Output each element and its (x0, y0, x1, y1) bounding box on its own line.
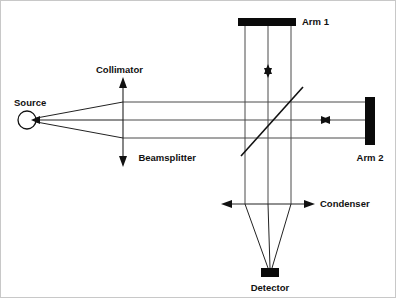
beamsplitter-label: Beamsplitter (138, 152, 196, 163)
condenser-label: Condenser (320, 198, 370, 209)
detector-label: Detector (251, 282, 290, 293)
arm2-mirror (365, 97, 375, 145)
detector-block (261, 268, 279, 277)
arm2-label: Arm 2 (357, 152, 384, 163)
arm1-mirror (238, 18, 296, 26)
interferometer-diagram: Source Collimator Beamsplitter Arm 1 Arm… (0, 0, 396, 298)
interferometer-figure: Source Collimator Beamsplitter Arm 1 Arm… (0, 0, 396, 298)
source-label: Source (14, 97, 46, 108)
figure-background (0, 0, 396, 298)
arm1-label: Arm 1 (302, 16, 330, 27)
collimator-label: Collimator (96, 64, 143, 75)
